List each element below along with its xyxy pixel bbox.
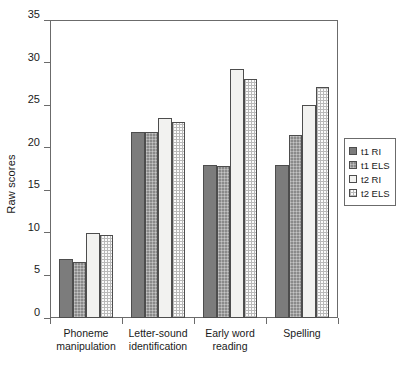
x-axis-group-label: Phoneme manipulation: [50, 327, 122, 353]
bar: [73, 262, 87, 318]
y-tick-label: 5: [0, 263, 40, 275]
bar: [59, 259, 73, 318]
x-axis-tick: [194, 318, 195, 324]
bar: [316, 87, 330, 318]
legend-label-t1-els: t1 ELS: [361, 160, 390, 171]
y-tick-label: 30: [0, 51, 40, 63]
legend-swatch-t1-ri: [349, 147, 357, 155]
bar: [275, 165, 289, 318]
legend-swatch-t2-els: [349, 189, 357, 197]
legend-item[interactable]: t2 ELS: [349, 186, 390, 200]
x-axis-tick: [266, 318, 267, 324]
legend-label-t1-ri: t1 RI: [361, 146, 381, 157]
bar: [158, 118, 172, 318]
bar: [230, 69, 244, 318]
y-tick-label: 20: [0, 136, 40, 148]
bar: [172, 122, 186, 318]
x-axis-group-label: Spelling: [266, 327, 338, 340]
legend-swatch-t1-els: [349, 161, 357, 169]
legend-item[interactable]: t1 ELS: [349, 158, 390, 172]
legend-item[interactable]: t1 RI: [349, 144, 390, 158]
bar: [145, 132, 159, 318]
x-axis-tick: [338, 318, 339, 324]
legend-label-t2-els: t2 ELS: [361, 188, 390, 199]
x-axis-tick: [122, 318, 123, 324]
x-axis-group-label: Early word reading: [194, 327, 266, 353]
bar: [244, 79, 258, 318]
legend-swatch-t2-ri: [349, 175, 357, 183]
y-tick-label: 35: [0, 8, 40, 20]
y-tick-label: 10: [0, 221, 40, 233]
legend: t1 RI t1 ELS t2 RI t2 ELS: [344, 138, 396, 206]
legend-label-t2-ri: t2 RI: [361, 174, 381, 185]
bar: [203, 165, 217, 318]
y-tick-label: 25: [0, 93, 40, 105]
bar: [217, 166, 231, 318]
bar: [131, 132, 145, 318]
x-axis-tick: [50, 318, 51, 324]
bar: [289, 135, 303, 318]
x-axis-group-label: Letter-sound identification: [122, 327, 194, 353]
bar-chart: Raw scores 05101520253035 Phoneme manipu…: [0, 0, 410, 368]
bar: [100, 235, 114, 318]
bars-layer: [50, 20, 338, 318]
legend-item[interactable]: t2 RI: [349, 172, 390, 186]
y-tick-label: 15: [0, 178, 40, 190]
bar: [302, 105, 316, 318]
y-tick-label: 0: [0, 306, 40, 318]
bar: [86, 233, 100, 318]
